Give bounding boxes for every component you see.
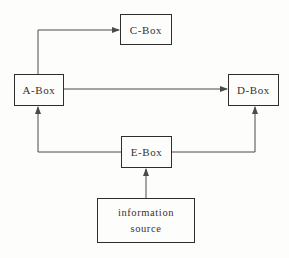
node-a-box-label: A-Box: [23, 84, 56, 96]
node-d-box: D-Box: [228, 74, 279, 106]
node-a-box: A-Box: [14, 74, 64, 106]
node-information-source: information source: [97, 198, 195, 243]
edge-ebox-to-abox: [38, 107, 121, 152]
flow-diagram: C-Box A-Box D-Box E-Box information sour…: [0, 0, 289, 258]
edge-ebox-to-dbox: [172, 107, 255, 152]
node-e-box: E-Box: [121, 136, 172, 168]
node-e-box-label: E-Box: [131, 146, 163, 158]
node-d-box-label: D-Box: [237, 84, 270, 96]
information-source-line-1: information: [118, 205, 174, 220]
edge-abox-to-cbox: [38, 30, 119, 74]
node-c-box-label: C-Box: [130, 24, 162, 36]
information-source-line-2: source: [118, 221, 174, 236]
node-c-box: C-Box: [120, 14, 172, 45]
node-information-source-label: information source: [118, 205, 174, 235]
